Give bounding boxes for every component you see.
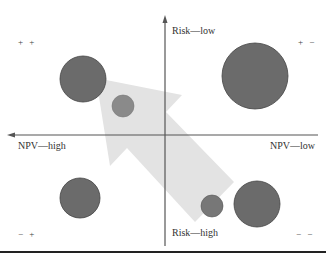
- bubble-bottom-right-large: [234, 181, 280, 227]
- quadrant-label-bottom-right: − −: [296, 229, 314, 239]
- bubble-bottom-left: [60, 178, 100, 218]
- bubble-top-left-large: [60, 56, 106, 102]
- quadrant-label-top-left: + +: [18, 37, 36, 47]
- y-axis-bottom-label: Risk—high: [172, 227, 218, 238]
- diagram-canvas: [0, 0, 331, 262]
- x-axis-right-label: NPV—low: [270, 140, 315, 151]
- bubble-bottom-right-small: [201, 195, 223, 217]
- y-axis-top-label: Risk—low: [172, 25, 215, 36]
- bubble-top-left-small: [112, 95, 134, 117]
- quadrant-label-bottom-left: − +: [18, 229, 36, 239]
- bubble-top-right-large: [222, 43, 288, 109]
- horizontal-axis-arrowhead: [7, 133, 15, 138]
- vertical-axis-arrowhead: [163, 15, 168, 23]
- quadrant-label-top-right: + −: [298, 37, 316, 47]
- x-axis-left-label: NPV—high: [18, 140, 66, 151]
